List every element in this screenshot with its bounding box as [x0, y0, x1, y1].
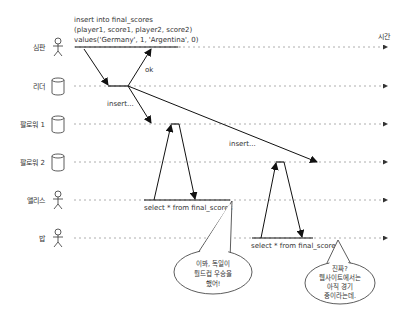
- actor-label-bob: 밥: [39, 234, 46, 243]
- insert-label-follower1: insert...: [107, 100, 134, 108]
- arrow-follower2-to-bob: [284, 162, 302, 237]
- insert-label-follower2: insert...: [229, 140, 256, 148]
- alice-bubble-line2: 월드컵 우승을: [194, 269, 232, 278]
- insert-statement-line1: insert into final_scores: [74, 16, 153, 24]
- database-icon-leader: [52, 78, 64, 95]
- arrow-leader-to-follower2: [128, 86, 317, 162]
- database-icon-follower1: [52, 116, 64, 133]
- replication-lag-sequence-diagram: 시간 심판 리더 팔로워 1 팔로워 2 앨리스 밥: [0, 0, 412, 313]
- ok-label: ok: [145, 66, 154, 74]
- person-icon-bob: [53, 229, 63, 247]
- actor-label-follower1: 팔로워 1: [20, 120, 45, 129]
- person-icon-alice: [53, 191, 63, 209]
- bob-bubble-line2: 웹사이트에서는: [319, 273, 361, 282]
- alice-bubble-line3: 했어!: [206, 279, 221, 288]
- bob-select-label: select * from final_scores: [251, 242, 340, 250]
- arrow-bob-to-follower2: [261, 163, 276, 238]
- arrow-referee-to-leader: [84, 49, 108, 85]
- time-axis-label: 시간: [378, 32, 391, 41]
- actor-label-alice: 앨리스: [27, 196, 46, 205]
- database-icon-follower2: [52, 154, 64, 171]
- person-icon-referee: [53, 38, 63, 56]
- alice-speech-bubble: 이봐, 독일이 월드컵 우승을 했어!: [174, 201, 252, 294]
- arrow-follower1-to-alice: [179, 124, 195, 199]
- bob-bubble-line3: 아직 경기: [327, 282, 353, 291]
- alice-bubble-line1: 이봐, 독일이: [196, 259, 230, 268]
- actor-label-follower2: 팔로워 2: [20, 158, 45, 167]
- arrow-alice-to-follower1: [154, 125, 171, 200]
- actor-label-leader: 리더: [33, 82, 45, 91]
- actor-label-referee: 심판: [33, 43, 46, 52]
- bob-bubble-line4: 중이라는데.: [324, 291, 356, 300]
- bob-bubble-line1: 진짜?: [332, 264, 347, 273]
- insert-statement-line2: (player1, score1, player2, score2): [74, 26, 193, 34]
- alice-select-label: select * from final_scores: [144, 204, 233, 212]
- insert-statement-line3: values('Germany', 1, 'Argentina', 0): [74, 36, 199, 44]
